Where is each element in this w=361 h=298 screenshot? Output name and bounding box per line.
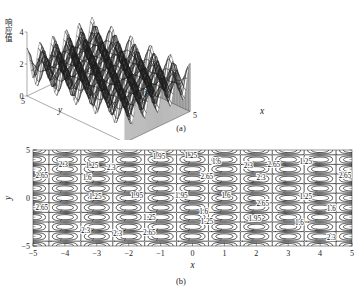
panel-b-x-tick: 3 [286,249,290,258]
panel-b-x-tick: −5 [29,249,38,258]
contour-level-label: 2.65 [256,200,269,208]
svg-text:0: 0 [143,90,147,99]
contour-level-label: 1.95 [175,192,188,200]
svg-text:5: 5 [21,97,25,106]
contour-level-label: 1.6 [212,158,221,166]
contour-level-label: 1.6 [199,208,208,216]
panel-b-x-tick: 5 [350,249,354,258]
panel-b-x-tick: −3 [93,249,102,258]
contour-level-label: 2.3 [81,227,90,235]
panel-b-x-tick: 4 [318,249,322,258]
contour-level-label: 2.3 [107,164,116,172]
svg-text:-5: -5 [87,67,94,76]
contour-level-label: 2.3 [113,230,122,238]
contour-level-label: 1.95 [153,153,166,161]
svg-text:5: 5 [193,111,197,120]
panel-b-x-tick: −2 [124,249,133,258]
contour-level-label: 2.65 [143,229,156,237]
contour-level-label: 1.25 [143,214,156,222]
contour-level-label: 2.65 [36,204,49,212]
contour-level-label: 2.3 [327,234,336,242]
contour-level-label: 2.3 [59,161,68,169]
panel-b-caption: (b) [161,277,201,286]
contour-level-label: 2.65 [268,161,281,169]
panel-b-y-tick: −5 [21,242,30,251]
panel-b-y-tick: 5 [26,146,30,155]
panel-b-x-tick: −1 [156,249,165,258]
panel-b-y-tick: 0 [26,194,30,203]
svg-text:2: 2 [19,60,23,69]
contour-level-label: 2.65 [339,172,352,180]
contour-level-label: 1.25 [299,193,312,201]
panel-b-x-tick: 1 [222,249,226,258]
contour-level-label: 1.95 [248,215,261,223]
contour-level-label: 1.6 [295,219,304,227]
svg-text:-5: -5 [96,67,103,76]
contour-level-label: 1.6 [327,205,336,213]
contour-level-label: 1.6 [83,174,92,182]
panel-b-x-tick: 0 [191,249,195,258]
contour-level-label: 2.65 [36,172,49,180]
svg-text:4: 4 [19,28,23,37]
surface-3d-canvas: 02450-5-505yx [0,0,361,140]
contour-level-label: 1.25 [89,193,102,201]
contour-level-label: 1.25 [299,158,312,166]
contour-level-label: 2.3 [257,174,266,182]
panel-b-x-tick: 2 [254,249,258,258]
svg-text:0: 0 [54,82,58,91]
panel-b-contour-plot: 1.252.32.652.31.951.251.62.32.651.252.65… [0,146,361,298]
panel-a-caption: (a) [161,124,201,133]
panel-b-x-tick: −4 [61,249,70,258]
panel-a-x-axis-label: x [259,106,265,116]
panel-b-y-axis-label: y [3,195,13,201]
panel-a-y-axis-label: y [57,105,63,115]
contour-level-label: 2.65 [201,173,214,181]
contour-level-label: 1.25 [201,218,214,226]
contour-level-label: 1.95 [130,192,143,200]
panel-b-x-axis-label: x [189,260,195,270]
contour-level-label: 1.25 [86,162,99,170]
contour-level-label: 1.6 [222,192,231,200]
figure-two-panel: 响应值 02450-5-505yx (a) 1.252.32.652.31.95… [0,0,361,298]
contour-level-label: 2.3 [244,162,253,170]
contour-level-label: 1.25 [185,152,198,160]
panel-a-surface-plot: 响应值 02450-5-505yx (a) [0,0,361,140]
